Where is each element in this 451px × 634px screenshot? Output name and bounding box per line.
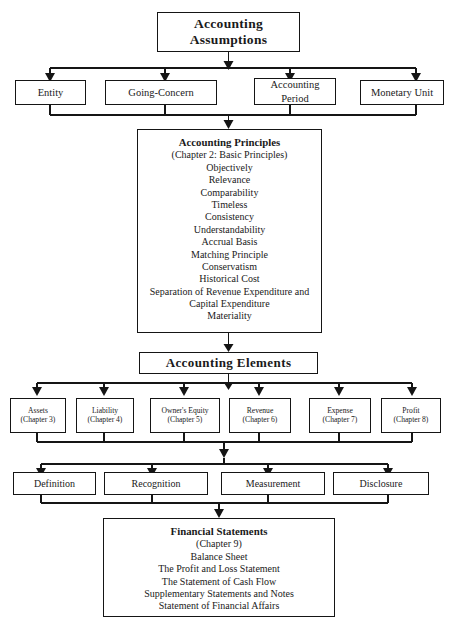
principle-item: Relevance: [209, 174, 251, 186]
principle-item: Materiality: [207, 310, 251, 322]
node-element-liability[interactable]: Liability (Chapter 4): [76, 398, 134, 433]
node-accounting-elements[interactable]: Accounting Elements: [139, 352, 318, 374]
node-going-concern[interactable]: Going-Concern: [105, 80, 217, 105]
node-line: Period: [281, 92, 308, 105]
element-chapter: (Chapter 6): [243, 416, 278, 425]
principle-item: Comparability: [201, 187, 259, 199]
node-aspect-definition[interactable]: Definition: [13, 472, 96, 495]
aspect-label: Definition: [34, 478, 75, 490]
node-line: Accounting: [194, 16, 263, 32]
node-label: Entity: [38, 86, 64, 99]
principle-item: Conservatism: [202, 261, 257, 273]
node-aspect-disclosure[interactable]: Disclosure: [333, 472, 429, 495]
principle-item: Matching Principle: [191, 249, 268, 261]
aspect-label: Recognition: [132, 478, 181, 490]
node-accounting-period[interactable]: Accounting Period: [254, 78, 336, 105]
statements-subheading: (Chapter 9): [196, 538, 242, 550]
node-label: Accounting Elements: [166, 355, 292, 370]
principle-item: Objectively: [206, 162, 253, 174]
node-financial-statements[interactable]: Financial Statements (Chapter 9) Balance…: [103, 518, 335, 617]
element-chapter: (Chapter 4): [88, 416, 123, 425]
node-element-revenue[interactable]: Revenue (Chapter 6): [229, 398, 291, 433]
statement-item: Supplementary Statements and Notes: [144, 588, 294, 600]
principle-item: Capital Expenditure: [189, 298, 269, 310]
principles-subheading: (Chapter 2: Basic Principles): [172, 149, 288, 161]
node-element-expense[interactable]: Expense (Chapter 7): [309, 398, 371, 433]
node-label: Going-Concern: [128, 86, 193, 99]
node-label: Monetary Unit: [371, 86, 433, 99]
element-chapter: (Chapter 3): [21, 416, 56, 425]
node-element-assets[interactable]: Assets (Chapter 3): [10, 398, 66, 433]
principle-item: Understandability: [194, 224, 266, 236]
aspect-label: Measurement: [246, 478, 300, 490]
node-line: Assumptions: [190, 32, 268, 48]
principle-item: Consistency: [205, 211, 254, 223]
element-chapter: (Chapter 8): [394, 416, 429, 425]
node-line: Accounting: [271, 78, 320, 91]
node-monetary-unit[interactable]: Monetary Unit: [360, 80, 444, 105]
node-element-profit[interactable]: Profit (Chapter 8): [381, 398, 441, 433]
statement-item: Balance Sheet: [191, 551, 248, 563]
node-accounting-assumptions[interactable]: Accounting Assumptions: [157, 12, 300, 52]
principle-item: Historical Cost: [199, 273, 259, 285]
element-chapter: (Chapter 5): [168, 416, 203, 425]
node-aspect-recognition[interactable]: Recognition: [104, 472, 208, 495]
statement-item: Statement of Financial Affairs: [159, 600, 280, 612]
node-element-owners-equity[interactable]: Owner's Equity (Chapter 5): [150, 398, 220, 433]
element-chapter: (Chapter 7): [323, 416, 358, 425]
principle-item: Timeless: [212, 199, 248, 211]
statement-item: The Profit and Loss Statement: [158, 563, 280, 575]
principles-heading: Accounting Principles: [179, 136, 281, 149]
principle-item: Accrual Basis: [202, 236, 258, 248]
aspect-label: Disclosure: [360, 478, 403, 490]
accounting-framework-diagram: Accounting Assumptions Entity Going-Conc…: [0, 0, 451, 634]
statement-item: The Statement of Cash Flow: [162, 576, 276, 588]
statements-heading: Financial Statements: [171, 525, 268, 538]
node-aspect-measurement[interactable]: Measurement: [221, 472, 325, 495]
node-accounting-principles[interactable]: Accounting Principles (Chapter 2: Basic …: [137, 129, 322, 333]
principle-item: Separation of Revenue Expenditure and: [150, 286, 309, 298]
node-entity[interactable]: Entity: [15, 80, 86, 105]
